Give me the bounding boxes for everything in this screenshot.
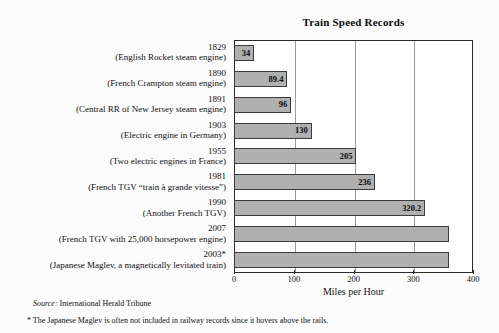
bar[interactable]: 205	[234, 148, 356, 164]
source-note: Source: International Herald Tribune	[33, 299, 151, 308]
bar-row[interactable]: 236	[234, 169, 473, 195]
x-tick-label: 0	[232, 274, 236, 284]
category-year: 1981	[0, 171, 226, 182]
category-year: 1890	[0, 68, 226, 79]
category-year: 1829	[0, 42, 226, 53]
bar-value-label: 96	[279, 100, 291, 109]
x-axis-title: Miles per Hour	[234, 286, 473, 297]
category-description: (English Rocket steam engine)	[0, 52, 226, 63]
source-text: International Herald Tribune	[58, 299, 152, 308]
bar-value-label: 236	[358, 178, 374, 187]
x-tick-label: 100	[287, 274, 300, 284]
category-description: (Japanese Maglev, a magnetically levitat…	[0, 260, 226, 271]
bar-row[interactable]: 205	[234, 144, 473, 170]
category-year: 2007	[0, 223, 226, 234]
bar-row[interactable]: 320.2	[234, 195, 473, 221]
bar[interactable]	[234, 252, 449, 268]
bar-value-label: 320.2	[402, 204, 424, 213]
category-description: (Electric engine in Germany)	[0, 130, 226, 141]
bar[interactable]: 130	[234, 123, 312, 139]
category-label: 1890(French Crampton steam engine)	[0, 68, 226, 89]
bar[interactable]: 34	[234, 45, 254, 61]
category-year: 2003*	[0, 249, 226, 260]
bar-value-label: 89.4	[269, 75, 287, 84]
category-label: 2003*(Japanese Maglev, a magnetically le…	[0, 249, 226, 270]
bar-row[interactable]: 130	[234, 118, 473, 144]
category-year: 1891	[0, 94, 226, 105]
bar-value-label: 205	[340, 152, 356, 161]
category-description: (Another French TGV)	[0, 208, 226, 219]
bar[interactable]: 96	[234, 97, 291, 113]
category-label: 1955(Two electric engines in France)	[0, 146, 226, 167]
bar-row[interactable]	[234, 221, 473, 247]
source-label: Source:	[33, 299, 58, 308]
category-year: 1955	[0, 146, 226, 157]
bar[interactable]: 89.4	[234, 71, 287, 87]
category-label: 1891(Central RR of New Jersey steam engi…	[0, 94, 226, 115]
category-year: 1903	[0, 120, 226, 131]
category-description: (French TGV with 25,000 horsepower engin…	[0, 234, 226, 245]
category-year: 1990	[0, 197, 226, 208]
category-label: 1981(French TGV “train à grande vitesse”…	[0, 171, 226, 192]
category-description: (Central RR of New Jersey steam engine)	[0, 104, 226, 115]
category-label: 2007(French TGV with 25,000 horsepower e…	[0, 223, 226, 244]
category-label: 1990(Another French TGV)	[0, 197, 226, 218]
bar-row[interactable]: 89.4	[234, 66, 473, 92]
category-description: (Two electric engines in France)	[0, 156, 226, 167]
bars-layer: 3489.496130205236320.2	[234, 40, 473, 273]
bar[interactable]: 236	[234, 174, 375, 190]
category-label: 1903(Electric engine in Germany)	[0, 120, 226, 141]
category-description: (French TGV “train à grande vitesse”)	[0, 182, 226, 193]
footnote: * The Japanese Maglev is often not inclu…	[27, 316, 328, 325]
bar-row[interactable]: 34	[234, 40, 473, 66]
x-tick-label: 300	[407, 274, 420, 284]
bar-value-label: 130	[295, 126, 311, 135]
x-tick-label: 200	[347, 274, 360, 284]
bar[interactable]: 320.2	[234, 200, 425, 216]
category-description: (French Crampton steam engine)	[0, 78, 226, 89]
train-speed-records-chart: Train Speed Records 1829(English Rocket …	[0, 0, 499, 333]
category-axis-labels: 1829(English Rocket steam engine)1890(Fr…	[0, 40, 230, 273]
bar[interactable]	[234, 226, 449, 242]
chart-title: Train Speed Records	[234, 16, 473, 28]
bar-value-label: 34	[242, 49, 254, 58]
x-tick-label: 400	[467, 274, 480, 284]
bar-row[interactable]: 96	[234, 92, 473, 118]
category-label: 1829(English Rocket steam engine)	[0, 42, 226, 63]
